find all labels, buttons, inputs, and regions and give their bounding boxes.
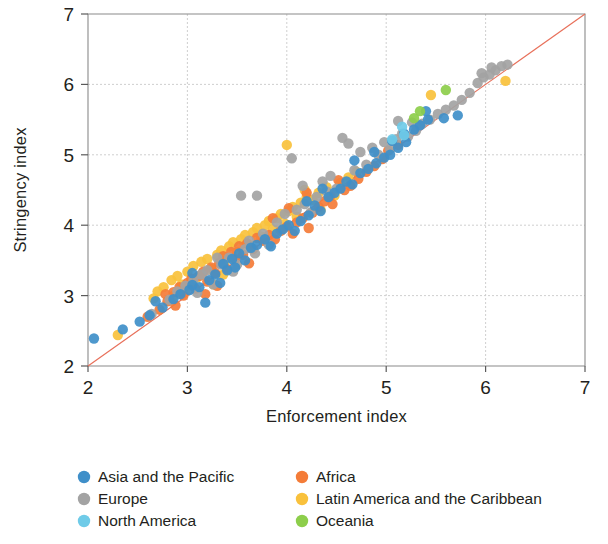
y-tick-label: 7 (63, 4, 74, 25)
legend-marker-icon (78, 515, 90, 527)
data-point (89, 333, 99, 343)
legend-marker-icon (78, 493, 90, 505)
data-point (325, 171, 335, 181)
legend-label: Europe (98, 490, 148, 507)
legend-item[interactable]: Africa (296, 468, 356, 485)
legend-marker-icon (296, 515, 308, 527)
data-point (230, 262, 240, 272)
data-point (303, 210, 313, 220)
legend-item[interactable]: Latin America and the Caribbean (296, 490, 542, 507)
data-point (303, 223, 313, 233)
legend-item[interactable]: North America (78, 512, 197, 529)
x-tick-label: 6 (480, 377, 491, 398)
data-point (194, 282, 204, 292)
data-point (415, 106, 425, 116)
data-point (369, 147, 379, 157)
data-point (317, 183, 327, 193)
data-point (426, 90, 436, 100)
data-point (134, 316, 144, 326)
legend-item[interactable]: Europe (78, 490, 148, 507)
data-point (385, 150, 395, 160)
legend-label: Africa (316, 468, 356, 485)
x-tick-label: 7 (580, 377, 591, 398)
data-point (144, 310, 154, 320)
data-point (175, 289, 185, 299)
data-point (240, 255, 250, 265)
legend-label: North America (98, 512, 197, 529)
x-tick-label: 3 (182, 377, 193, 398)
data-point (287, 153, 297, 163)
y-tick-label: 5 (63, 145, 74, 166)
x-tick-label: 2 (83, 377, 94, 398)
data-point (290, 226, 300, 236)
data-point (465, 88, 475, 98)
legend-label: Asia and the Pacific (98, 468, 234, 485)
legend-marker-icon (296, 493, 308, 505)
legend-item[interactable]: Oceania (296, 512, 374, 529)
scatter-plot-figure: 234567234567 Enforcement indexStringency… (0, 0, 608, 544)
data-point (280, 209, 290, 219)
data-point (349, 155, 359, 165)
data-point (252, 190, 262, 200)
legend-label: Oceania (316, 512, 374, 529)
chart-canvas: 234567234567 Enforcement indexStringency… (0, 0, 608, 544)
data-point (355, 147, 365, 157)
data-point (439, 113, 449, 123)
data-point (215, 278, 225, 288)
data-point (399, 130, 409, 140)
data-point (266, 241, 276, 251)
legend-item[interactable]: Asia and the Pacific (78, 468, 235, 485)
data-point (150, 296, 160, 306)
data-point (282, 140, 292, 150)
y-axis-title: Stringency index (11, 127, 29, 253)
y-tick-label: 2 (63, 356, 74, 377)
x-tick-label: 5 (381, 377, 392, 398)
data-point (457, 95, 467, 105)
data-point (347, 179, 357, 189)
legend-marker-icon (296, 471, 308, 483)
x-tick-label: 4 (282, 377, 293, 398)
data-point (441, 85, 451, 95)
x-axis-title: Enforcement index (266, 407, 408, 425)
data-point (301, 196, 311, 206)
data-point (200, 297, 210, 307)
legend-marker-icon (78, 471, 90, 483)
data-point (343, 138, 353, 148)
data-point (502, 59, 512, 69)
data-point (315, 206, 325, 216)
chart-legend: Asia and the PacificAfricaEuropeLatin Am… (78, 468, 542, 529)
data-point (187, 268, 197, 278)
y-tick-label: 6 (63, 74, 74, 95)
data-point (486, 62, 496, 72)
y-tick-label: 3 (63, 286, 74, 307)
data-point (236, 190, 246, 200)
y-tick-label: 4 (63, 215, 74, 236)
data-points (89, 59, 513, 343)
data-point (453, 110, 463, 120)
data-point (298, 181, 308, 191)
data-point (387, 134, 397, 144)
data-point (118, 324, 128, 334)
data-point (500, 76, 510, 86)
legend-label: Latin America and the Caribbean (316, 490, 542, 507)
data-point (476, 68, 486, 78)
